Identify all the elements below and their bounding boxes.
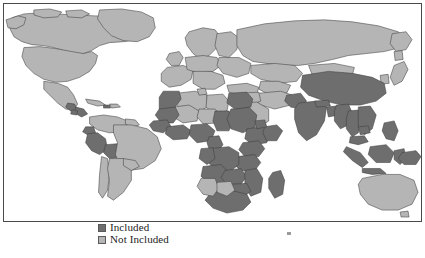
region-el-salvador (71, 110, 78, 115)
legend-label-included: Included (110, 222, 149, 233)
map-legend: Included Not Included (98, 222, 169, 245)
region-tasmania (400, 211, 409, 217)
region-kenya-uganda (239, 141, 265, 157)
legend-item-included: Included (98, 222, 169, 233)
not-included-swatch (98, 236, 106, 244)
world-map-svg: .inc { fill:#6e6e6e; stroke:#3f3f3f; str… (4, 4, 421, 221)
legend-label-not-included: Not Included (110, 234, 169, 245)
map-plate: .inc { fill:#6e6e6e; stroke:#3f3f3f; str… (3, 3, 422, 222)
legend-item-not-included: Not Included (98, 234, 169, 245)
region-tunisia (197, 88, 207, 95)
world-map-figure: .inc { fill:#6e6e6e; stroke:#3f3f3f; str… (0, 0, 425, 258)
region-sakhalin (394, 51, 403, 61)
region-nepal-bhutan (315, 100, 331, 107)
scan-artifact-speck (287, 232, 291, 235)
included-swatch (98, 224, 106, 232)
region-haiti (104, 105, 111, 108)
